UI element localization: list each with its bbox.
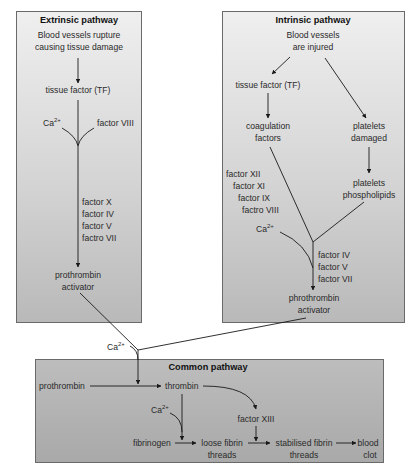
extrinsic-end-line2: activator: [62, 282, 94, 294]
intrinsic-end-line2: activator: [298, 305, 330, 317]
intrinsic-plat-phos-line2: phospholipids: [343, 190, 396, 202]
common-stab-line2: threads: [290, 450, 319, 462]
intrinsic-plat-dmg-line2: damaged: [351, 133, 387, 145]
extrinsic-factor-4: factro VII: [82, 233, 116, 245]
intrinsic-factor-right-2: factor V: [318, 262, 348, 274]
junction-ca-label: Ca2+: [107, 342, 125, 354]
common-title: Common pathway: [168, 362, 247, 374]
intrinsic-plat-phos-line1: platelets: [353, 178, 385, 190]
extrinsic-tissue-factor: tissue factor (TF): [46, 85, 111, 97]
common-factor-xiii: factor XIII: [238, 414, 275, 426]
extrinsic-start-line1: Blood vessels rupture: [38, 30, 121, 42]
intrinsic-factor-left-3: factor IX: [238, 193, 270, 205]
intrinsic-start-line1: Blood vessels: [286, 30, 339, 42]
common-ca-label: Ca2+: [151, 405, 169, 417]
intrinsic-factor-right-3: factor VII: [318, 274, 352, 286]
intrinsic-factor-left-4: factro VIII: [242, 205, 279, 217]
intrinsic-plat-dmg-line1: platelets: [353, 121, 385, 133]
common-clot-line2: clot: [363, 450, 376, 462]
common-loose-line1: loose fibrin: [201, 438, 243, 450]
extrinsic-title: Extrinsic pathway: [40, 15, 118, 27]
common-thrombin: thrombin: [165, 381, 198, 393]
extrinsic-factor-3: factor V: [82, 221, 112, 233]
intrinsic-tissue-factor: tissue factor (TF): [236, 80, 301, 92]
extrinsic-start-line2: causing tissue damage: [35, 42, 123, 54]
extrinsic-ca-label: Ca2+: [43, 118, 61, 130]
extrinsic-end-line1: prothrombin: [55, 270, 101, 282]
intrinsic-ca-label: Ca2+: [256, 224, 274, 236]
common-prothrombin: prothrombin: [39, 381, 85, 393]
intrinsic-coag-line1: coagulation: [246, 121, 290, 133]
extrinsic-factor-2: factor IV: [82, 209, 114, 221]
common-fibrinogen: fibrinogen: [133, 438, 171, 450]
extrinsic-factor-viii: factor VIII: [97, 118, 134, 130]
pathway-arrows: [0, 0, 413, 468]
common-loose-line2: threads: [208, 450, 237, 462]
intrinsic-factor-left-2: factor XI: [233, 181, 265, 193]
intrinsic-start-line2: are injured: [293, 42, 334, 54]
extrinsic-factor-1: factor X: [82, 197, 112, 209]
intrinsic-title: Intrinsic pathway: [275, 15, 350, 27]
intrinsic-factor-right-1: factor IV: [318, 250, 350, 262]
common-stab-line1: stabilised fibrin: [276, 438, 333, 450]
intrinsic-end-line1: phrothrombin: [289, 293, 340, 305]
intrinsic-factor-left-1: factor XII: [226, 169, 260, 181]
intrinsic-coag-line2: factors: [255, 133, 281, 145]
common-clot-line1: blood: [357, 438, 378, 450]
